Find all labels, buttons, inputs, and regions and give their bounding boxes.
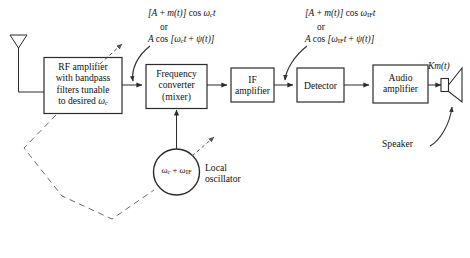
rf-f2-a: A [148,34,156,44]
local-oscillator-caption-line-2: oscillator [205,174,241,185]
local-oscillator-caption: Local oscillator [205,163,241,184]
rf-amplifier-line-1: RF amplifier [44,61,122,72]
rf-formula-line-1: [A + m(t)] cos ωct [148,8,215,19]
rf-f1-omega: ω [203,8,210,18]
rf-amplifier-line-3: filters tunable [44,84,122,95]
if-f2-a: A [305,34,313,44]
if-formula-line-2: A cos [ωIFt + ψ(t)] [305,34,375,45]
rf-f1-b: m(t)] [167,8,188,18]
rf-amplifier-omega-sub: c [105,99,108,106]
if-signal-formula: [A + m(t)] cos ωIFt or A cos [ωIFt + ψ(t… [305,8,375,45]
antenna-feed-line [19,48,45,92]
detector-line-1: Detector [297,80,344,91]
rf-signal-formula: [A + m(t)] cos ωct or A cos [ωct + ψ(t)] [148,8,215,45]
audio-amplifier-line-2: amplifier [373,83,428,94]
oscillator-plus: + [170,165,179,175]
mixer-line-3: (mixer) [146,91,207,102]
if-f1-t: t [373,8,376,18]
mixer-label: Frequency converter (mixer) [146,68,207,102]
rf-amplifier-line-2: with bandpass [44,72,122,83]
if-amplifier-line-2: amplifier [231,85,274,96]
rf-f2-b: [ω [171,34,181,44]
rf-f2-cos: cos [156,34,171,44]
rf-f1-plus: + [157,8,167,18]
oscillator-tuning-arrow [192,137,214,156]
audio-amplifier-line-1: Audio [373,72,428,83]
oscillator-omega-2-sub: IF [186,168,192,175]
rf-amplifier-line-4: to desired ωc [44,95,122,107]
rf-f1-a: [A [148,8,157,18]
if-amplifier-label: IF amplifier [231,74,274,97]
if-f2-psi: ψ(t)] [356,34,374,44]
if-f2-plus: + [346,34,356,44]
if-f2-b: [ω [328,34,338,44]
detector-label: Detector [297,80,344,91]
audio-amplifier-label: Audio amplifier [373,72,428,95]
diagram-vector-layer [0,0,470,258]
if-f1-omega: ω [360,8,367,18]
speaker-icon [441,68,462,102]
rf-amplifier-omega: ω [98,95,105,106]
speaker-caption: Speaker [382,139,413,150]
if-f1-a: [A [305,8,314,18]
mixer-line-1: Frequency [146,68,207,79]
rf-f1-cos: cos [189,8,204,18]
rf-f1-t: t [213,8,216,18]
rf-f2-psi: ψ(t)] [196,34,214,44]
audio-output-m: m(t) [434,61,450,71]
diagram-canvas: RF amplifier with bandpass filters tunab… [0,0,470,258]
rf-amplifier-line-4-prefix: to desired [58,95,98,106]
if-formula-line-1: [A + m(t)] cos ωIFt [305,8,375,19]
oscillator-frequency-label: ωc + ωIF [153,166,200,176]
if-f1-b: m(t)] [324,8,345,18]
if-f1-plus: + [314,8,324,18]
ganged-tuning-dashed-link [24,115,154,219]
audio-output-formula: Km(t) [428,61,450,71]
if-f2-cos: cos [313,34,328,44]
rf-formula-or: or [160,22,215,32]
rf-formula-line-2: A cos [ωct + ψ(t)] [148,34,215,45]
rf-f2-plus: + [186,34,196,44]
if-f1-cos: cos [346,8,361,18]
if-formula-or: or [317,22,375,32]
speaker-leader [430,107,452,146]
mixer-line-2: converter [146,79,207,90]
rf-amplifier-label: RF amplifier with bandpass filters tunab… [44,61,122,107]
if-amplifier-line-1: IF [231,74,274,85]
